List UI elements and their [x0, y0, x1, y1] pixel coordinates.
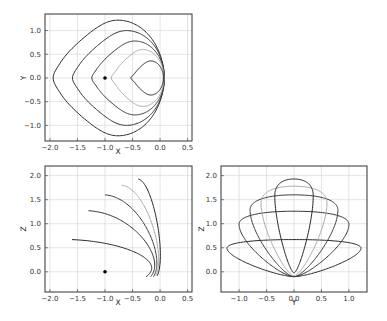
top-left-xlabel: X [115, 147, 120, 156]
x-tick-label: −1.0 [231, 295, 248, 303]
y-tick-label: −0.5 [24, 98, 41, 106]
figure: −2.0−1.5−1.0−0.50.00.5−1.0−0.50.00.51.0 … [0, 0, 387, 321]
x-tick-label: −2.0 [41, 144, 58, 152]
bottom-right-ylabel: Z [197, 226, 206, 231]
top-left-xy-plot: −2.0−1.5−1.0−0.50.00.5−1.0−0.50.00.51.0 [24, 14, 193, 152]
x-tick-label: −0.5 [124, 144, 141, 152]
y-tick-label: 0.5 [206, 244, 217, 252]
x-tick-label: 0.5 [182, 144, 193, 152]
x-tick-label: −1.5 [69, 144, 86, 152]
x-tick-label: 0.0 [154, 295, 165, 303]
y-tick-label: 1.5 [206, 196, 217, 204]
y-tick-label: 1.0 [30, 27, 41, 35]
x-tick-label: 0.5 [182, 295, 193, 303]
x-tick-label: 0.5 [316, 295, 327, 303]
y-tick-label: 0.0 [206, 268, 217, 276]
bottom-right-xlabel: Y [291, 298, 297, 307]
y-tick-label: 2.0 [30, 172, 41, 180]
top-left-ylabel: Y [19, 75, 28, 81]
x-tick-label: −1.0 [97, 144, 114, 152]
x-tick-label: −2.0 [41, 295, 58, 303]
y-tick-label: 2.0 [206, 172, 217, 180]
origin-marker [103, 270, 107, 274]
bottom-right-yz-plot: −1.0−0.50.00.51.00.00.51.01.52.0 [206, 166, 367, 303]
x-tick-label: −1.0 [97, 295, 114, 303]
x-tick-label: 1.0 [343, 295, 354, 303]
y-tick-label: 0.5 [30, 244, 41, 252]
y-tick-label: 1.5 [30, 196, 41, 204]
y-tick-label: 1.0 [206, 220, 217, 228]
y-tick-label: −1.0 [24, 122, 41, 130]
x-tick-label: −1.5 [69, 295, 86, 303]
origin-marker [103, 76, 107, 80]
x-tick-label: −0.5 [258, 295, 275, 303]
x-tick-label: 0.0 [154, 144, 165, 152]
bottom-left-xz-plot: −2.0−1.5−1.0−0.50.00.50.00.51.01.52.0 [30, 166, 193, 303]
bottom-left-ylabel: Z [19, 226, 28, 231]
bottom-left-xlabel: X [115, 298, 120, 307]
x-tick-label: −0.5 [124, 295, 141, 303]
y-tick-label: 0.0 [30, 268, 41, 276]
y-tick-label: 0.0 [30, 74, 41, 82]
y-tick-label: 1.0 [30, 220, 41, 228]
y-tick-label: 0.5 [30, 51, 41, 59]
